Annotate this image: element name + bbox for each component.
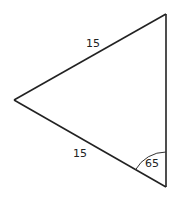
triangle-diagram: 15 15 65 — [0, 0, 175, 200]
side-label-top: 15 — [86, 37, 100, 50]
angle-label-bottom: 65 — [145, 157, 159, 170]
side-left-to-bottom — [14, 100, 166, 187]
side-label-bottom: 15 — [73, 147, 87, 160]
side-left-to-top — [14, 14, 166, 100]
